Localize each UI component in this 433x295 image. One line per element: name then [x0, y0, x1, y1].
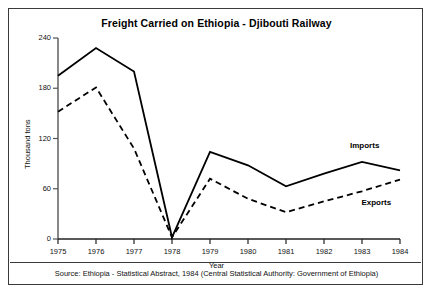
chart-frame: Freight Carried on Ethiopia - Djibouti R… — [8, 8, 423, 285]
series-line-imports — [58, 48, 400, 237]
x-tick-label: 1982 — [310, 247, 338, 256]
series-label-exports: Exports — [361, 198, 391, 207]
x-tick-label: 1975 — [44, 247, 72, 256]
source-divider — [10, 262, 421, 263]
data-series-group — [58, 48, 400, 237]
x-axis-ticks — [58, 239, 400, 244]
x-tick-label: 1979 — [196, 247, 224, 256]
x-tick-label: 1976 — [82, 247, 110, 256]
chart-axes — [58, 38, 400, 239]
y-axis-label: Thousand tons — [23, 119, 32, 169]
x-tick-label: 1978 — [158, 247, 186, 256]
x-tick-label: 1984 — [386, 247, 414, 256]
source-note: Source: Ethiopia - Statistical Abstract,… — [9, 269, 424, 278]
series-label-imports: Imports — [350, 141, 379, 150]
y-tick-label: 0 — [19, 234, 51, 243]
y-axis-ticks — [53, 38, 58, 239]
y-tick-label: 60 — [19, 184, 51, 193]
series-line-exports — [58, 87, 400, 237]
x-tick-label: 1977 — [120, 247, 148, 256]
y-tick-label: 180 — [19, 83, 51, 92]
y-tick-label: 240 — [19, 33, 51, 42]
x-tick-label: 1980 — [234, 247, 262, 256]
x-tick-label: 1981 — [272, 247, 300, 256]
x-tick-label: 1983 — [348, 247, 376, 256]
y-tick-label: 120 — [19, 134, 51, 143]
